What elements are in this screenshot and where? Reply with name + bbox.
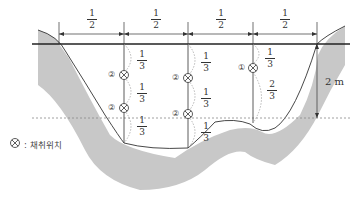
v1-point-2-label: ② (108, 103, 115, 112)
v1-seg-3: 13 (137, 116, 147, 137)
v2-seg-1: 13 (201, 52, 211, 73)
legend: : 채취위치 (8, 138, 62, 150)
v2-seg-3: 13 (201, 122, 211, 143)
v2-seg-2: 13 (201, 88, 211, 109)
v2-point-1-label: ② (172, 73, 179, 82)
top-dim-3: 12 (216, 9, 226, 30)
v1-seg-2: 13 (137, 83, 147, 104)
v3-seg-2: 23 (267, 80, 277, 101)
top-dim-1: 12 (87, 9, 97, 30)
v2-point-2-label: ② (172, 109, 179, 118)
v1-seg-1: 13 (137, 50, 147, 71)
v1-point-1-label: ② (108, 70, 115, 79)
cross-section-diagram (0, 0, 353, 197)
v3-seg-1: 13 (265, 48, 275, 69)
legend-text: : 채취위치 (24, 138, 62, 150)
top-dim-4: 12 (280, 9, 290, 30)
v3-point-1-label: ① (238, 63, 245, 72)
top-dim-2: 12 (151, 9, 161, 30)
depth-label: 2 m (325, 76, 344, 87)
